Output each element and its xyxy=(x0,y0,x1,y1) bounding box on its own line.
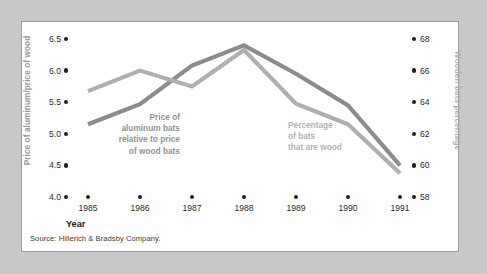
x-tick-label: 1985 xyxy=(66,203,110,213)
tick-dot xyxy=(412,68,417,73)
x-tick-label: 1986 xyxy=(118,203,162,213)
x-axis-title: Year xyxy=(66,219,85,229)
x-tick-label: 1991 xyxy=(378,203,422,213)
left-tick-label: 5.0 xyxy=(37,129,61,139)
right-tick-label: 64 xyxy=(420,97,444,107)
left-tick-label: 6.0 xyxy=(37,66,61,76)
right-tick-label: 58 xyxy=(420,192,444,202)
left-tick-label: 6.5 xyxy=(37,34,61,44)
tick-dot xyxy=(64,163,69,168)
tick-dot xyxy=(64,68,69,73)
x-tick-label: 1987 xyxy=(170,203,214,213)
x-tick-label: 1989 xyxy=(274,203,318,213)
right-tick-label: 62 xyxy=(420,129,444,139)
annotation-wood-series: Percentage of bats that are wood xyxy=(288,120,396,154)
left-tick-label: 4.0 xyxy=(37,192,61,202)
chart-figure: Price of aluminum/price of wood Wooden b… xyxy=(0,0,487,274)
annotation-aluminum-series: Price of aluminum bats relative to price… xyxy=(76,112,180,157)
x-tick-label: 1990 xyxy=(326,203,370,213)
right-tick-label: 66 xyxy=(420,66,444,76)
right-tick-label: 68 xyxy=(420,34,444,44)
left-tick-label: 5.5 xyxy=(37,97,61,107)
left-axis-title: Price of aluminum/price of wood xyxy=(23,16,32,186)
source-note: Source: Hillerich & Bradsby Company. xyxy=(30,234,160,243)
chart-plot-area xyxy=(0,0,487,274)
right-axis-title: Wooden bats percentage xyxy=(453,16,462,186)
tick-dot xyxy=(412,163,417,168)
right-tick-label: 60 xyxy=(420,160,444,170)
left-tick-label: 4.5 xyxy=(37,160,61,170)
x-tick-label: 1988 xyxy=(222,203,266,213)
